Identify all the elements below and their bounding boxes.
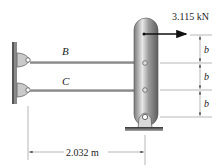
wall-support: [12, 42, 17, 104]
dimension-b-2: b: [204, 71, 209, 82]
force-label: 3.115 kN: [172, 11, 209, 22]
wall-bracket-b: [17, 53, 30, 67]
member-c-label: C: [62, 75, 70, 87]
rod-c: [30, 89, 144, 92]
dimension-length: 2.032 m: [66, 147, 99, 158]
dimension-b-3: b: [204, 98, 209, 109]
member-b-label: B: [62, 45, 69, 57]
rod-b: [30, 61, 144, 64]
wall-bracket-c: [17, 83, 30, 97]
truss-diagram: 3.115 kN B C b b b 2.032 m: [0, 0, 220, 168]
dimension-b-1: b: [204, 44, 209, 55]
